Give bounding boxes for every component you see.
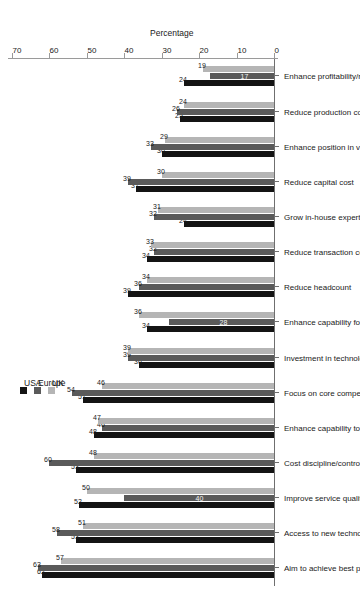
category-tick	[274, 235, 279, 270]
bar: 57	[61, 558, 274, 564]
bar-value-label: 29	[161, 133, 169, 140]
bar: 39	[128, 291, 274, 297]
bar: 34	[147, 277, 274, 283]
bar: 46	[102, 425, 274, 431]
category-label: Aim to achieve best practice	[284, 564, 360, 573]
bar-group: 535851	[12, 516, 274, 551]
bar-value-label: 39	[123, 175, 131, 182]
bar-value-label: 24	[179, 98, 187, 105]
plot-area: 6263575358515240505360484846475154463639…	[0, 0, 360, 608]
bar: 29	[165, 137, 274, 143]
value-axis-tick-label: 60	[50, 46, 59, 55]
bars-region: 6263575358515240505360484846475154463639…	[12, 59, 274, 586]
legend-swatch	[48, 387, 55, 394]
value-axis-tick-label: 40	[125, 46, 134, 55]
category-tick	[274, 481, 279, 516]
bar: 50	[87, 488, 274, 494]
bar-groups: 6263575358515240505360484846475154463639…	[12, 59, 274, 586]
bar-value-label: 52	[74, 498, 82, 505]
category-label-cell: Aim to achieve best practice	[282, 551, 360, 586]
legend-item: UK	[46, 356, 57, 394]
bar-value-label: 50	[82, 484, 90, 491]
bar-value-label: 39	[123, 344, 131, 351]
bar-value-label: 40	[196, 495, 204, 502]
bar: 36	[139, 362, 274, 368]
category-tick	[274, 129, 279, 164]
value-axis-tick-label: 20	[200, 46, 209, 55]
bar-group: 343233	[12, 235, 274, 270]
category-label-cell: Enhance capability for change	[282, 305, 360, 340]
category-label-cell: Improve service quality	[282, 481, 360, 516]
category-label-cell: Enhance profitability/revenue through sp…	[282, 59, 360, 94]
bar: 30	[162, 151, 274, 157]
bar: 17	[210, 73, 274, 79]
category-tick-marks	[274, 59, 279, 586]
bar: 31	[158, 207, 274, 213]
bar: 30	[162, 172, 274, 178]
bar: 63	[38, 565, 274, 571]
bar: 60	[49, 460, 274, 466]
bar-group: 524050	[12, 481, 274, 516]
category-tick	[274, 516, 279, 551]
category-label: Enhance capability for change	[284, 318, 360, 327]
bar: 39	[128, 348, 274, 354]
category-label: Reduce transaction costs	[284, 248, 360, 257]
category-label-cell: Reduce transaction costs	[282, 235, 360, 270]
rotated-figure: 6263575358515240505360484846475154463639…	[0, 0, 360, 608]
bar: 32	[154, 249, 274, 255]
category-label-cell: Investment in technology	[282, 340, 360, 375]
bar: 34	[147, 326, 274, 332]
bar-value-label: 48	[89, 428, 97, 435]
category-label-cell: Reduce production costs	[282, 94, 360, 129]
bar: 52	[79, 502, 274, 508]
category-tick	[274, 410, 279, 445]
bar-value-label: 34	[142, 273, 150, 280]
legend-item: USA	[18, 356, 29, 394]
bar: 62	[42, 572, 274, 578]
bar: 47	[98, 418, 274, 424]
bar-value-label: 51	[78, 519, 86, 526]
bar: 24	[184, 80, 274, 86]
value-axis-title: Percentage	[150, 28, 193, 38]
category-label: Reduce production costs	[284, 107, 360, 116]
category-label-cell: Cost discipline/control	[282, 445, 360, 480]
category-label: Investment in technology	[284, 353, 360, 362]
bar: 32	[154, 214, 274, 220]
category-label: Enhance profitability/revenue through sp…	[284, 72, 360, 81]
bar: 19	[203, 66, 274, 72]
bar-group: 393634	[12, 270, 274, 305]
bar-group: 626357	[12, 551, 274, 586]
bar: 33	[151, 242, 275, 248]
category-tick	[274, 199, 279, 234]
category-label-cell: Enhance capability to develop new produc…	[282, 410, 360, 445]
bar: 40	[124, 495, 274, 501]
category-tick	[274, 340, 279, 375]
category-label: Reduce headcount	[284, 283, 351, 292]
bar-group: 252624	[12, 94, 274, 129]
bar-value-label: 34	[142, 252, 150, 259]
bar: 39	[128, 355, 274, 361]
category-label-cell: Access to new technology/skills	[282, 516, 360, 551]
bar-value-label: 63	[33, 561, 41, 568]
bar-value-label: 32	[149, 210, 157, 217]
legend-swatch	[20, 387, 27, 394]
category-tick	[274, 59, 279, 94]
category-tick	[274, 270, 279, 305]
bar: 53	[76, 467, 274, 473]
bar-group: 303329	[12, 129, 274, 164]
category-axis-labels: Aim to achieve best practiceAccess to ne…	[282, 59, 360, 586]
bar-value-label: 26	[172, 105, 180, 112]
category-tick	[274, 94, 279, 129]
bar-value-label: 34	[142, 322, 150, 329]
category-label: Reduce capital cost	[284, 177, 354, 186]
value-axis-tick-label: 30	[162, 46, 171, 55]
bar: 36	[139, 284, 274, 290]
value-axis-tick-label: 70	[13, 46, 22, 55]
bar-value-label: 30	[157, 168, 165, 175]
bar-group: 241719	[12, 59, 274, 94]
bar-value-label: 31	[153, 203, 161, 210]
category-label-cell: Grow in-house expertise	[282, 199, 360, 234]
bar-group: 373930	[12, 164, 274, 199]
bar-value-label: 60	[45, 456, 53, 463]
bar: 46	[102, 383, 274, 389]
